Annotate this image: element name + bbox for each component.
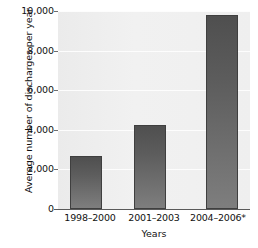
y-tick-label: 4,000 bbox=[4, 125, 54, 135]
y-tick-label: 8,000 bbox=[4, 46, 54, 56]
x-axis-title: Years bbox=[58, 228, 250, 239]
y-tick-label: 0 bbox=[4, 204, 54, 214]
x-tick-label: 1998–2000 bbox=[58, 212, 122, 223]
x-tick-label: 2004–2006* bbox=[186, 212, 250, 223]
y-axis-ticks: 02,0004,0006,0008,00010,000 bbox=[0, 0, 54, 248]
y-tick-label: 10,000 bbox=[4, 6, 54, 16]
x-tick-label: 2001–2003 bbox=[122, 212, 186, 223]
x-axis-ticks: 1998–20002001–20032004–2006* bbox=[58, 212, 250, 228]
bar bbox=[134, 125, 166, 209]
bar bbox=[206, 15, 238, 209]
y-tick-label: 2,000 bbox=[4, 164, 54, 174]
plot-area bbox=[58, 11, 250, 209]
bar bbox=[70, 156, 102, 209]
x-axis-line bbox=[54, 209, 250, 210]
gridline bbox=[58, 11, 250, 12]
y-tick-label: 6,000 bbox=[4, 85, 54, 95]
bar-chart: Average number of discharges per year 02… bbox=[0, 0, 258, 248]
